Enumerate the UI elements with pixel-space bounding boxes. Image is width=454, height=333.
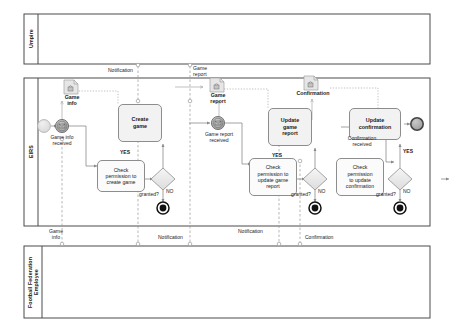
flow-label-yes-1: YES — [120, 149, 130, 155]
flow-label-yes-2: YES — [272, 152, 282, 158]
data-object-label-confirmation: Confirmation — [285, 90, 341, 96]
gateway-label-granted-2: granted? — [291, 191, 311, 197]
event-game-report-received — [211, 116, 224, 129]
message-flow-label-game-info-bottom: Game info — [42, 228, 70, 240]
event-end-update-confirmation — [394, 202, 406, 214]
pool-label-umpire: Umpire — [24, 14, 38, 64]
task-check-permission-to-update-game-report[interactable]: Check permission to update game report — [249, 158, 297, 196]
task-check-permission-to-create-game[interactable]: Check permission to create game — [97, 160, 145, 192]
flow-label-no-1: NO — [166, 188, 174, 194]
pool-label-eirs: EIRS — [24, 78, 38, 226]
event-label-game-info-received: Game info received — [40, 134, 84, 146]
pool-football-federation-employee — [24, 246, 430, 318]
diagram-vector-layer — [0, 0, 454, 333]
message-flow-label-notification-bottom-2: Notification — [238, 228, 263, 234]
message-flow-label-notification-bottom-1: Notification — [158, 234, 183, 240]
event-end-final — [411, 118, 423, 130]
gateway-label-granted-3: granted? — [376, 191, 396, 197]
event-label-confirmation-received: Confirmation received — [337, 135, 387, 147]
message-flow-label-notification-top: Notification — [108, 67, 133, 73]
pool-umpire — [24, 14, 430, 64]
flow-label-no-3: NO — [403, 188, 411, 194]
flow-label-yes-3: YES — [403, 148, 413, 154]
task-update-game-report[interactable]: Update game report — [268, 108, 312, 146]
event-game-info-received — [55, 119, 68, 132]
message-flow-label-confirmation-bottom: Confirmation — [305, 234, 333, 240]
data-object-label-game-info: Game info — [50, 94, 94, 107]
flow-label-no-2: NO — [318, 188, 326, 194]
gateway-label-granted-1: granted? — [139, 191, 159, 197]
data-object-game-report — [210, 78, 224, 92]
data-object-game-info — [64, 80, 78, 94]
event-label-game-report-received: Game report received — [194, 131, 244, 143]
bpmn-diagram-canvas: Umpire EIRS Football Federation Employee… — [0, 0, 454, 333]
event-end-create-game — [157, 202, 169, 214]
pool-label-football-federation-employee: Football Federation Employee — [24, 246, 42, 318]
event-end-update-game-report — [309, 202, 321, 214]
message-flow-label-game-report-top: Game report — [193, 65, 223, 77]
event-start — [38, 120, 51, 133]
data-object-confirmation — [304, 76, 318, 90]
task-create-game[interactable]: Create game — [118, 104, 162, 142]
data-object-label-game-report: Game report — [196, 92, 240, 105]
